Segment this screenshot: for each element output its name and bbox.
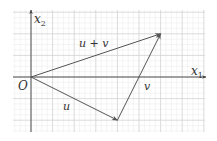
origin-label: O bbox=[18, 79, 28, 93]
vector-diagram: x1 x2 O u + v v u bbox=[0, 0, 217, 141]
x2-axis-label: x2 bbox=[34, 12, 46, 28]
u-plus-v-label: u + v bbox=[79, 37, 109, 50]
u-label: u bbox=[63, 100, 70, 113]
minor-grid bbox=[13, 10, 205, 132]
v-label: v bbox=[144, 80, 151, 93]
coordinate-plane: x1 x2 O u + v v u bbox=[0, 0, 217, 141]
